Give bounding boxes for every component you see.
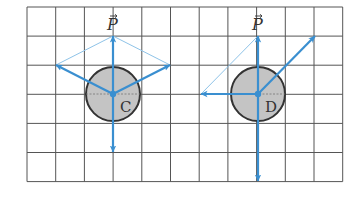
- disk-label: D: [265, 98, 277, 116]
- force-diagram: CPDP: [0, 0, 360, 200]
- force-p-label: P: [106, 15, 118, 34]
- panel-d: DP: [201, 14, 315, 181]
- force-p-label: P: [251, 15, 263, 34]
- grid: [27, 7, 343, 182]
- center-point: [255, 91, 261, 97]
- disk-label: C: [120, 98, 131, 116]
- center-point: [110, 91, 116, 97]
